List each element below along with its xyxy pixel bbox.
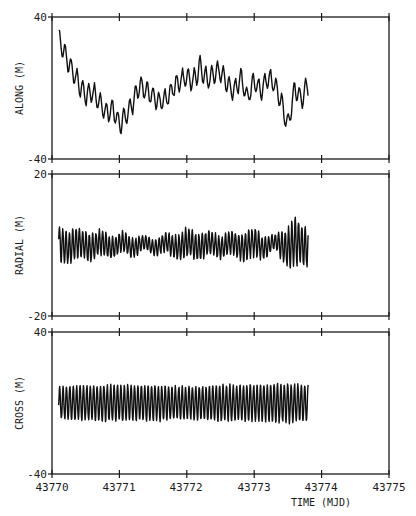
- residual-time-series-figure: 40 -40 20 -20 40 -40 ALONG (M) RADIAL (M…: [0, 0, 416, 516]
- radial-series-line: [59, 217, 308, 268]
- x-axis-title: TIME (MJD): [291, 497, 351, 508]
- cross-axis-title: CROSS (M): [14, 376, 25, 430]
- radial-axis-title: RADIAL (M): [14, 215, 25, 275]
- xtick-label-43774: 43774: [304, 481, 337, 494]
- radial-ymin-label: -20: [27, 310, 47, 323]
- along-ymax-label: 40: [34, 11, 47, 24]
- along-axis-title: ALONG (M): [14, 61, 25, 115]
- radial-panel-frame: [52, 174, 389, 316]
- cross-ymax-label: 40: [34, 326, 47, 339]
- cross-series-line: [59, 383, 308, 424]
- along-ymin-label: -40: [27, 153, 47, 166]
- xtick-label-43771: 43771: [102, 481, 135, 494]
- radial-ymax-label: 20: [34, 168, 47, 181]
- xtick-label-43770: 43770: [35, 481, 68, 494]
- along-series-line: [59, 30, 308, 133]
- along-panel-frame: [52, 17, 389, 159]
- xtick-label-43773: 43773: [237, 481, 270, 494]
- cross-ymin-label: -40: [27, 468, 47, 481]
- xtick-label-43775: 43775: [372, 481, 405, 494]
- xtick-label-43772: 43772: [169, 481, 202, 494]
